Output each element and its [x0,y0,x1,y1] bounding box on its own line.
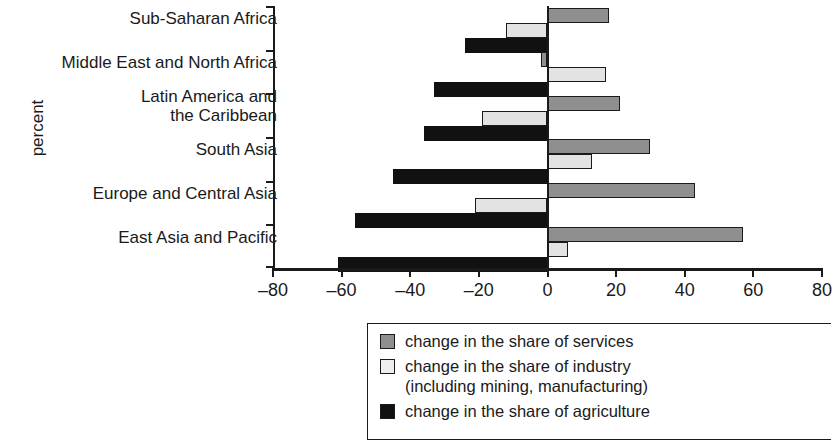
y-axis-tick [266,224,274,226]
x-axis-tick [272,268,274,277]
bar-industry [506,23,547,38]
x-axis-tick-label: –60 [312,280,372,301]
x-axis-tick [547,268,549,277]
x-axis-tick [409,268,411,277]
bar-industry [548,154,593,169]
bar-agriculture [355,213,547,228]
x-axis-tick-label: 60 [723,280,783,301]
x-axis-tick [684,268,686,277]
x-axis-tick [752,268,754,277]
bar-services [541,52,548,67]
x-axis-tick-label: 80 [792,280,836,301]
bar-industry [548,242,569,257]
bar-services [548,8,610,23]
y-axis-category-label: South Asia [7,140,277,159]
bar-agriculture [434,82,547,97]
y-axis-tick [266,137,274,139]
y-axis-tick [266,50,274,52]
y-axis-tick [266,6,274,8]
legend-label-agriculture: change in the share of agriculture [405,401,650,421]
legend-item-agriculture[interactable]: change in the share of agriculture [380,401,831,421]
bar-agriculture [424,126,548,141]
y-axis-tick [266,93,274,95]
bar-agriculture [393,169,547,184]
y-axis-category-label: Latin America andthe Caribbean [7,87,277,125]
bar-services [548,227,744,242]
x-axis-tick [341,268,343,277]
bar-services [548,139,651,154]
legend-swatch-agriculture-icon [380,404,395,419]
bar-industry [475,198,547,213]
bar-industry [482,111,547,126]
x-axis-tick [478,268,480,277]
bar-services [548,96,620,111]
legend-label-industry: change in the share of industry [405,356,648,376]
y-axis-tick [266,181,274,183]
y-axis-category-label: East Asia and Pacific [7,228,277,247]
y-axis-category-label: Middle East and North Africa [7,53,277,72]
x-axis-tick-label: 0 [518,280,578,301]
x-axis-tick-label: –20 [449,280,509,301]
bar-services [548,183,696,198]
legend: change in the share of services change i… [367,323,831,440]
x-axis-tick-label: 40 [655,280,715,301]
x-axis-tick-label: –80 [243,280,303,301]
x-axis-tick [615,268,617,277]
y-axis-category-label: Sub-Saharan Africa [7,9,277,28]
bar-industry [548,67,606,82]
x-axis-tick-label: 20 [586,280,646,301]
y-axis-category-labels: Sub-Saharan AfricaMiddle East and North … [0,0,285,268]
x-axis-tick-label: –40 [380,280,440,301]
bar-agriculture [465,38,547,53]
legend-item-services[interactable]: change in the share of services [380,331,831,351]
legend-label-services: change in the share of services [405,331,633,351]
legend-swatch-services-icon [380,334,395,349]
y-axis-category-label: Europe and Central Asia [7,184,277,203]
x-axis-tick [821,268,823,277]
plot-area [273,6,822,268]
legend-label-industry-sub: (including mining, manufacturing) [405,376,648,396]
legend-swatch-industry-icon [380,359,395,374]
legend-item-industry[interactable]: change in the share of industry (includi… [380,356,831,396]
